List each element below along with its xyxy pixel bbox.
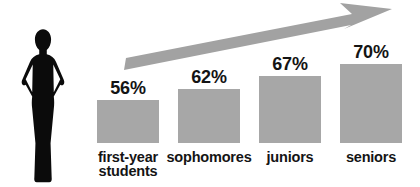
bar-seniors	[340, 64, 402, 143]
bar-value-label: 62%	[191, 68, 226, 86]
bar-first-year	[97, 100, 159, 143]
bar-value-label: 67%	[272, 55, 307, 73]
bar-category-label: sophomores	[164, 143, 254, 187]
bar-group-juniors: 67% juniors	[245, 0, 335, 187]
bar-group-sophomores: 62% sophomores	[164, 0, 254, 187]
bar-sophomores	[178, 89, 240, 143]
bar-category-label: first-year students	[83, 143, 173, 187]
bar-group-first-year: 56% first-year students	[83, 0, 173, 187]
bar-value-label: 56%	[110, 79, 145, 97]
bar-category-label: seniors	[326, 143, 416, 187]
bar-category-label: juniors	[245, 143, 335, 187]
woman-silhouette-icon	[16, 26, 70, 186]
bar-group-seniors: 70% seniors	[326, 0, 416, 187]
bar-value-label: 70%	[353, 43, 388, 61]
infographic-canvas: 56% first-year students 62% sophomores 6…	[0, 0, 420, 187]
bar-juniors	[259, 76, 321, 143]
